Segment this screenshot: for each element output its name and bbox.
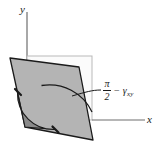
shear-strain-annotation: π 2 − γ xy — [103, 79, 133, 102]
minus-operator: − — [114, 86, 120, 96]
fraction-denominator: 2 — [104, 92, 111, 103]
gamma-xy-term: γ xy — [123, 86, 133, 96]
pi-over-two-fraction: π 2 — [103, 79, 111, 102]
y-axis-label: y — [20, 4, 25, 15]
figure-canvas — [0, 0, 158, 149]
leader-line-hidden — [92, 90, 100, 112]
x-axis-label: x — [147, 114, 152, 125]
shear-strain-figure: y x π 2 − γ xy — [0, 0, 158, 149]
gamma-subscript: xy — [127, 91, 133, 98]
fraction-numerator: π — [103, 79, 110, 90]
gamma-symbol: γ — [123, 86, 127, 96]
